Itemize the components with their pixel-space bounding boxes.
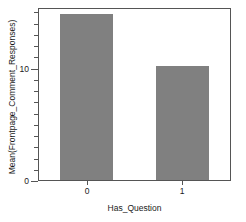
x-axis-tick-label: 1: [162, 186, 202, 196]
x-axis-tick-label: 0: [67, 186, 107, 196]
bar: [60, 14, 113, 180]
bars-layer: [39, 9, 230, 180]
x-axis-tick: [182, 181, 183, 185]
bar: [156, 66, 209, 180]
y-axis-major-tick: [31, 69, 38, 70]
bar-chart: Mean(Frontpage_Comment_Responses) 010 01…: [0, 0, 246, 222]
x-axis-tick: [87, 181, 88, 185]
y-axis-major-tick: [31, 181, 38, 182]
y-axis-title: Mean(Frontpage_Comment_Responses): [7, 2, 17, 192]
x-axis-title: Has_Question: [38, 203, 231, 213]
